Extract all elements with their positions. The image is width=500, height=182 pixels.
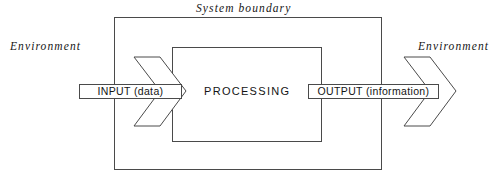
output-label: OUTPUT (information) (318, 86, 430, 97)
environment-label-left: Environment (10, 41, 81, 53)
environment-label-right: Environment (418, 41, 489, 53)
processing-label: PROCESSING (204, 86, 290, 97)
output-label-box: OUTPUT (information) (308, 84, 439, 99)
diagram-canvas: Environment Environment System boundary … (0, 0, 500, 182)
input-label-box: INPUT (data) (79, 84, 182, 99)
system-boundary-label: System boundary (196, 3, 291, 15)
input-label: INPUT (data) (98, 86, 164, 97)
